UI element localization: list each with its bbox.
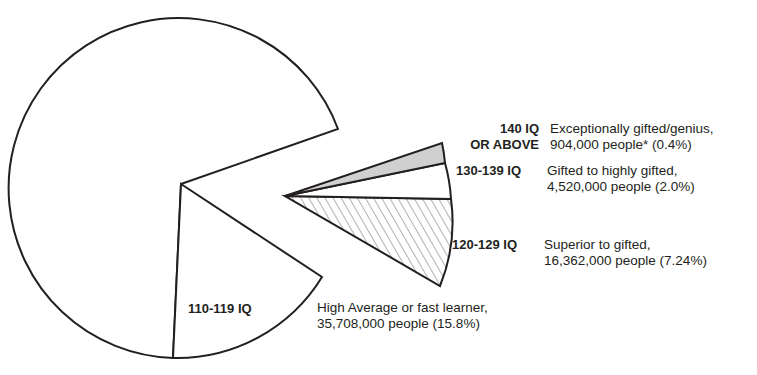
desc-line-1: Superior to gifted,	[544, 237, 707, 253]
label-110-range: 110-119 IQ	[188, 301, 252, 317]
label-130-range: 130-139 IQ	[456, 163, 521, 179]
desc-line-2: 4,520,000 people (2.0%)	[547, 179, 695, 195]
label-120-desc: Superior to gifted, 16,362,000 people (7…	[544, 237, 707, 269]
label-130-desc: Gifted to highly gifted, 4,520,000 peopl…	[547, 163, 695, 195]
desc-line-2: 35,708,000 people (15.8%)	[317, 316, 488, 332]
desc-line-1: Exceptionally gifted/genius,	[550, 121, 714, 137]
label-140-range: 140 IQ OR ABOVE	[440, 121, 539, 153]
desc-line-2: 16,362,000 people (7.24%)	[544, 253, 707, 269]
slice-110-119	[173, 184, 322, 358]
range-line-1: 140 IQ	[440, 121, 539, 137]
desc-line-2: 904,000 people* (0.4%)	[550, 137, 714, 153]
desc-line-1: High Average or fast learner,	[317, 300, 488, 316]
label-120-range: 120-129 IQ	[452, 237, 517, 253]
range-line-2: OR ABOVE	[440, 137, 539, 153]
label-140-desc: Exceptionally gifted/genius, 904,000 peo…	[550, 121, 714, 153]
label-110-desc: High Average or fast learner, 35,708,000…	[317, 300, 488, 332]
desc-line-1: Gifted to highly gifted,	[547, 163, 695, 179]
